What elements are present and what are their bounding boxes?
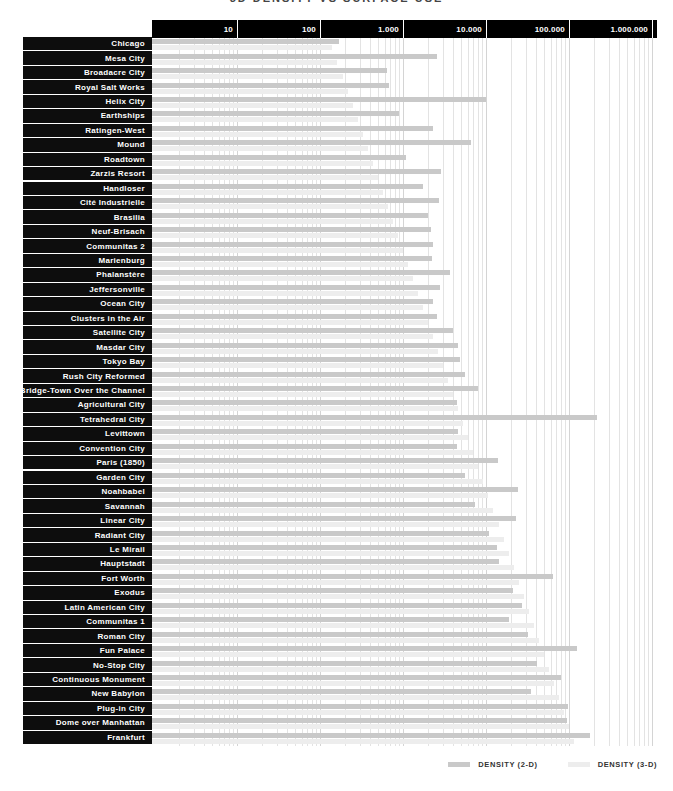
bar-3d bbox=[152, 695, 559, 700]
bar-3d bbox=[152, 421, 463, 426]
bar-2d bbox=[152, 169, 441, 174]
bar-3d bbox=[152, 609, 529, 614]
bar-3d bbox=[152, 161, 373, 166]
bar-2d bbox=[152, 400, 457, 405]
row-label: Masdar City bbox=[23, 340, 152, 353]
bar-3d bbox=[152, 248, 403, 253]
row-label: Zarzis Resort bbox=[23, 167, 152, 180]
bar-2d bbox=[152, 545, 497, 550]
row-label: Jeffersonville bbox=[23, 283, 152, 296]
bar-2d bbox=[152, 502, 475, 507]
bar-3d bbox=[152, 392, 453, 397]
bar-3d bbox=[152, 320, 428, 325]
bar-3d bbox=[152, 580, 519, 585]
bar-2d bbox=[152, 39, 339, 44]
bar-2d bbox=[152, 429, 458, 434]
row-label: Roman City bbox=[23, 629, 152, 642]
row-label: Fort Worth bbox=[23, 572, 152, 585]
legend: DENSITY (2-D) DENSITY (3-D) bbox=[448, 760, 657, 769]
bar-2d bbox=[152, 617, 509, 622]
legend-swatch-3d-icon bbox=[568, 762, 590, 767]
bar-2d bbox=[152, 299, 433, 304]
bar-2d bbox=[152, 574, 553, 579]
row-label: Ratingen-West bbox=[23, 124, 152, 137]
axis-tick-label: 10.000 bbox=[456, 20, 482, 38]
bar-3d bbox=[152, 233, 398, 238]
bar-2d bbox=[152, 285, 440, 290]
bar-3d bbox=[152, 334, 433, 339]
axis-tick-label: 1.000.000 bbox=[611, 20, 648, 38]
chart-title: 3D DENSITY VS SURFACE USE bbox=[0, 0, 673, 5]
row-label: Tetrahedral City bbox=[23, 413, 152, 426]
bar-2d bbox=[152, 270, 450, 275]
axis-tick-label: 100 bbox=[302, 20, 316, 38]
bar-3d bbox=[152, 652, 544, 657]
bar-2d bbox=[152, 242, 433, 247]
bar-3d bbox=[152, 103, 353, 108]
bar-3d bbox=[152, 190, 383, 195]
bar-3d bbox=[152, 493, 488, 498]
bar-2d bbox=[152, 386, 478, 391]
bar-2d bbox=[152, 111, 399, 116]
row-label: Helix City bbox=[23, 95, 152, 108]
row-label: Mound bbox=[23, 138, 152, 151]
row-label: Garden City bbox=[23, 471, 152, 484]
density-chart-page: 3D DENSITY VS SURFACE USE 101001.00010.0… bbox=[0, 0, 673, 791]
bar-3d bbox=[152, 117, 358, 122]
bar-2d bbox=[152, 126, 433, 131]
bar-3d bbox=[152, 667, 549, 672]
row-label: Linear City bbox=[23, 514, 152, 527]
bar-3d bbox=[152, 522, 499, 527]
bar-2d bbox=[152, 733, 590, 738]
row-label: Broadacre City bbox=[23, 66, 152, 79]
row-label: Chicago bbox=[23, 37, 152, 50]
axis-decade-separator bbox=[403, 20, 404, 38]
axis-tick-label: 100.000 bbox=[535, 20, 565, 38]
bar-3d bbox=[152, 551, 509, 556]
bar-3d bbox=[152, 262, 408, 267]
bar-3d bbox=[152, 204, 388, 209]
row-label: Neuf-Brisach bbox=[23, 225, 152, 238]
bar-3d bbox=[152, 681, 554, 686]
row-label: Paris (1850) bbox=[23, 456, 152, 469]
bar-3d bbox=[152, 508, 493, 513]
bar-3d bbox=[152, 74, 343, 79]
bar-2d bbox=[152, 531, 489, 536]
bar-3d bbox=[152, 45, 332, 50]
bar-3d bbox=[152, 435, 468, 440]
row-label: Latin American City bbox=[23, 601, 152, 614]
axis-decade-separator bbox=[652, 20, 653, 38]
axis-header: 101001.00010.000100.0001.000.000 bbox=[152, 20, 657, 38]
axis-decade-separator bbox=[320, 20, 321, 38]
bar-3d bbox=[152, 276, 413, 281]
row-label: Communitas 1 bbox=[23, 615, 152, 628]
row-labels-column: ChicagoMesa CityBroadacre CityRoyal Salt… bbox=[23, 37, 152, 747]
row-label: Bridge-Town Over the Channel bbox=[23, 384, 152, 397]
bar-2d bbox=[152, 559, 499, 564]
bar-3d bbox=[152, 363, 443, 368]
bar-2d bbox=[152, 227, 431, 232]
bar-3d bbox=[152, 89, 348, 94]
bar-2d bbox=[152, 140, 471, 145]
axis-tick-label: 1.000 bbox=[378, 20, 399, 38]
bar-3d bbox=[152, 450, 473, 455]
bar-3d bbox=[152, 710, 564, 715]
row-label: Satellite City bbox=[23, 326, 152, 339]
legend-swatch-2d-icon bbox=[448, 762, 470, 767]
row-label: Frankfurt bbox=[23, 731, 152, 744]
bar-3d bbox=[152, 132, 363, 137]
axis-decade-separator bbox=[486, 20, 487, 38]
bar-3d bbox=[152, 378, 448, 383]
legend-item-3d: DENSITY (3-D) bbox=[568, 760, 657, 769]
bar-3d bbox=[152, 623, 534, 628]
bar-3d bbox=[152, 349, 438, 354]
row-label: Tokyo Bay bbox=[23, 355, 152, 368]
bar-2d bbox=[152, 718, 567, 723]
row-label: New Babylon bbox=[23, 687, 152, 700]
bar-2d bbox=[152, 97, 486, 102]
bar-3d bbox=[152, 175, 378, 180]
row-label: Dome over Manhattan bbox=[23, 716, 152, 729]
row-label: Agricultural City bbox=[23, 398, 152, 411]
bar-3d bbox=[152, 464, 478, 469]
bar-2d bbox=[152, 646, 577, 651]
